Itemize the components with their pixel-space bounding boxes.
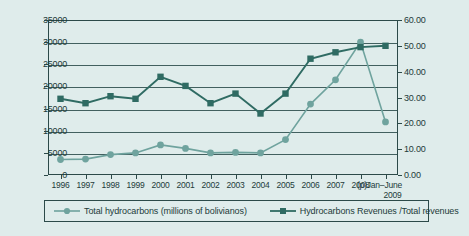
x-axis-tick: [211, 175, 212, 179]
x-axis-tick: [186, 175, 187, 179]
legend-label: Hydrocarbons Revenues /Total revenues: [300, 206, 459, 216]
x-axis-tick-label: 1999: [126, 181, 144, 191]
gridline: [49, 43, 397, 44]
x-axis-tick: [61, 175, 62, 179]
left-axis-tick: [44, 109, 48, 110]
right-axis-tick-label: 50.00: [404, 41, 454, 51]
left-axis-tick: [44, 64, 48, 65]
x-axis-tick-label: 2007: [326, 181, 344, 191]
right-axis-tick: [398, 98, 402, 99]
x-axis-tick: [361, 175, 362, 179]
left-axis-tick: [44, 175, 48, 176]
left-axis-tick: [44, 42, 48, 43]
x-axis-tick-label: 2003: [226, 181, 244, 191]
right-axis-tick-label: 0.00: [404, 170, 454, 180]
x-axis-tick-label: (p)Jan–June2009: [352, 181, 408, 200]
gridline: [49, 110, 397, 111]
x-axis-tick: [286, 175, 287, 179]
right-axis-tick: [398, 46, 402, 47]
gridline: [49, 132, 397, 133]
x-axis-tick: [386, 175, 387, 179]
x-axis-tick: [111, 175, 112, 179]
x-axis-tick-label: 2001: [176, 181, 194, 191]
x-axis-tick: [261, 175, 262, 179]
right-axis-tick-label: 20.00: [404, 118, 454, 128]
right-axis-tick-label: 60.00: [404, 15, 454, 25]
legend-item-hydrocarbons-revenues: Hydrocarbons Revenues /Total revenues: [270, 206, 459, 216]
right-axis-tick-label: 10.00: [404, 144, 454, 154]
x-axis-tick: [311, 175, 312, 179]
x-axis-tick: [136, 175, 137, 179]
left-axis-tick: [44, 131, 48, 132]
x-axis-tick-label: 1997: [76, 181, 94, 191]
legend-label: Total hydrocarbons (millions of bolivian…: [84, 206, 247, 216]
right-axis-tick: [398, 149, 402, 150]
x-axis-tick: [236, 175, 237, 179]
x-axis-tick: [336, 175, 337, 179]
legend-swatch-circle-icon: [54, 206, 80, 216]
right-axis-tick: [398, 175, 402, 176]
chart-legend: Total hydrocarbons (millions of bolivian…: [44, 200, 429, 222]
x-axis-tick-label: 2005: [276, 181, 294, 191]
right-axis-tick: [398, 123, 402, 124]
left-axis-tick: [44, 20, 48, 21]
right-axis-tick: [398, 72, 402, 73]
left-axis-tick: [44, 86, 48, 87]
gridline: [49, 65, 397, 66]
left-axis-tick: [44, 153, 48, 154]
hydrocarbons-chart: 05000100001500020000250003000035000 0.00…: [0, 0, 469, 236]
x-axis-tick-label: 1996: [51, 181, 69, 191]
right-axis-tick: [398, 20, 402, 21]
gridline: [49, 154, 397, 155]
right-axis-tick-label: 30.00: [404, 93, 454, 103]
x-axis-tick-label: 2006: [301, 181, 319, 191]
x-axis-tick-label: 2004: [251, 181, 269, 191]
x-axis-tick: [86, 175, 87, 179]
x-axis-tick: [161, 175, 162, 179]
plot-area: [48, 20, 398, 175]
legend-item-total-hydrocarbons: Total hydrocarbons (millions of bolivian…: [54, 206, 247, 216]
legend-swatch-square-icon: [270, 206, 296, 216]
x-axis-tick-label: 2002: [201, 181, 219, 191]
gridline: [49, 87, 397, 88]
x-axis-tick-label: 2000: [151, 181, 169, 191]
right-axis-tick-label: 40.00: [404, 67, 454, 77]
x-axis-tick-label: 1998: [101, 181, 119, 191]
